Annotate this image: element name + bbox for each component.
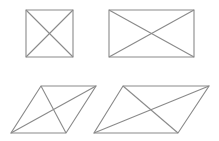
shape-parallelogram — [94, 86, 209, 133]
parallelogram-diagonal-2 — [94, 86, 209, 133]
shape-rectangle — [109, 10, 194, 57]
shape-rhombus — [11, 86, 96, 133]
rhombus-diagonal-2 — [11, 86, 96, 133]
diagram-canvas — [0, 0, 219, 141]
shape-square — [26, 10, 73, 57]
quadrilaterals-figure — [0, 0, 219, 141]
